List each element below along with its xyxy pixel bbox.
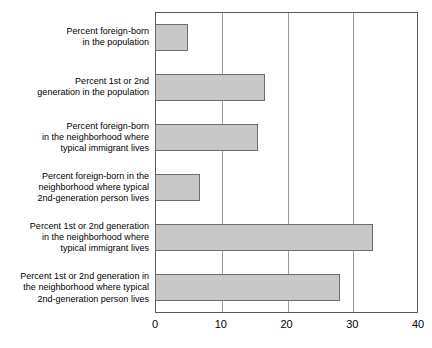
x-tick-label-3: 30 [337, 318, 367, 331]
x-tick-label-0: 0 [140, 318, 170, 331]
x-axis-ticks: 0 10 20 30 40 [0, 0, 432, 348]
x-tick-label-1: 10 [206, 318, 236, 331]
x-tick-label-2: 20 [272, 318, 302, 331]
bar-chart: Percent foreign-born in the population P… [0, 0, 432, 348]
x-tick-label-4: 40 [403, 318, 432, 331]
